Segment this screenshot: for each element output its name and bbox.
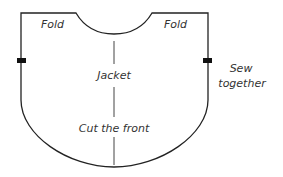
right-notch (203, 58, 212, 63)
left-notch (17, 58, 26, 63)
together-label: together (218, 77, 267, 90)
cut-the-front-label: Cut the front (79, 122, 150, 135)
fold-right-label: Fold (164, 18, 188, 31)
jacket-pattern-diagram: Fold Fold Jacket Cut the front Sew toget… (0, 0, 283, 177)
sew-label: Sew (230, 62, 253, 75)
fold-left-label: Fold (41, 18, 65, 31)
jacket-label: Jacket (95, 69, 131, 82)
